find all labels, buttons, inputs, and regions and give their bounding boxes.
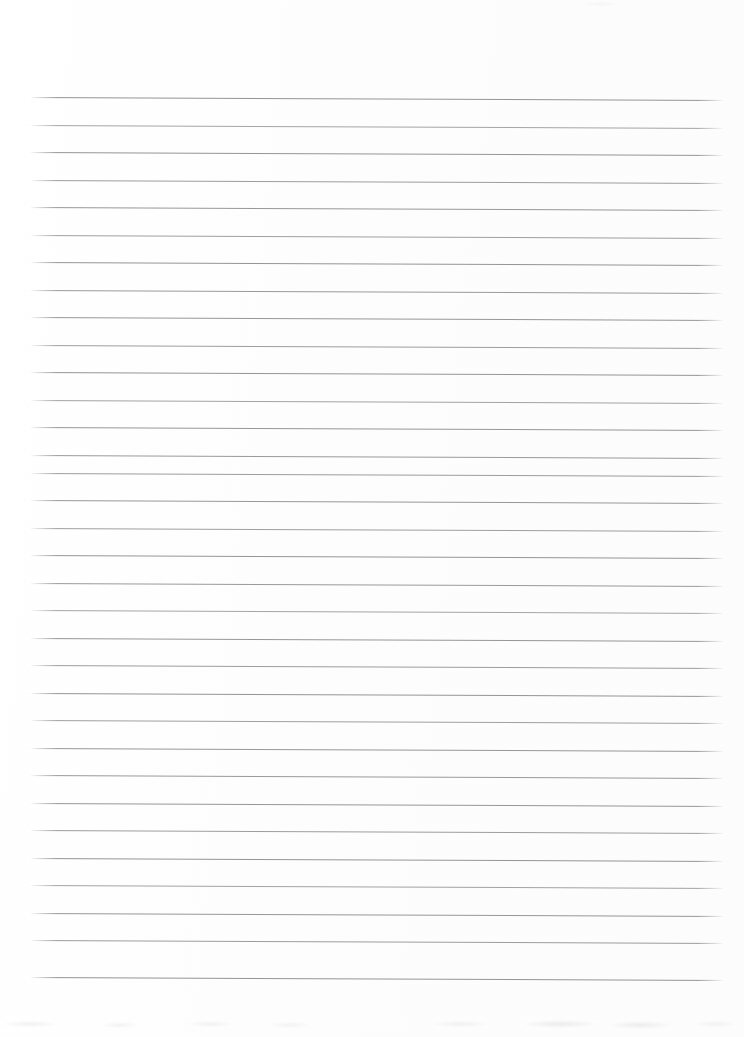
ruled-line [31, 290, 723, 294]
ruled-line [31, 638, 723, 642]
ruled-line [31, 940, 723, 944]
ruled-line [31, 125, 723, 129]
ruled-line [31, 152, 723, 156]
ruled-line [31, 720, 723, 724]
ruled-line [31, 528, 723, 532]
ruled-line [31, 97, 723, 101]
ruled-line [31, 207, 723, 211]
ruled-line [31, 913, 723, 917]
ruled-line [31, 775, 723, 779]
ruled-lines-layer [0, 0, 744, 1037]
ruled-line [31, 317, 723, 321]
ruled-line [31, 693, 723, 697]
ruled-line [31, 500, 723, 504]
ruled-line [31, 372, 723, 376]
ruled-line [31, 665, 723, 669]
ruled-line [31, 858, 723, 862]
ruled-line-gap-artifact [612, 470, 626, 475]
ruled-line [31, 180, 723, 184]
ruled-line [31, 400, 723, 404]
ruled-line [31, 803, 723, 807]
ruled-line [31, 427, 723, 431]
ruled-line [31, 235, 723, 239]
ruled-line [31, 455, 723, 459]
scanned-page [0, 0, 744, 1037]
ruled-line [31, 885, 723, 889]
ruled-line [31, 610, 723, 614]
ruled-line [31, 262, 723, 266]
ruled-line [31, 748, 723, 752]
ruled-line [31, 977, 723, 981]
ruled-line [31, 555, 723, 559]
ruled-line [31, 345, 723, 349]
ruled-line [31, 583, 723, 587]
ruled-line [31, 830, 723, 834]
